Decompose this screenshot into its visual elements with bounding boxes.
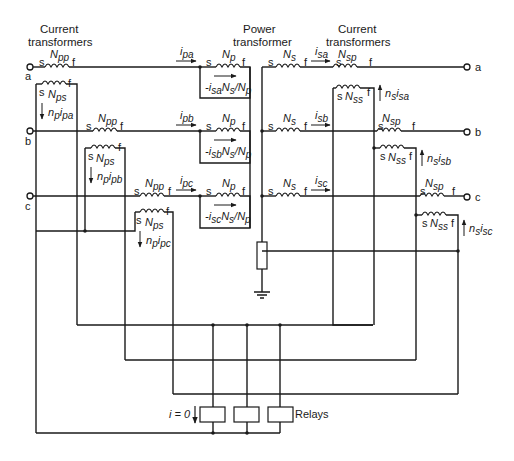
svg-text:s: s <box>88 150 94 162</box>
header-ct-left: Current transformers <box>28 23 93 48</box>
terminal-right-a <box>464 64 470 70</box>
label-ns-b: Ns <box>283 112 296 127</box>
svg-text:s: s <box>136 214 142 226</box>
terminal-right-a-label: a <box>475 61 482 73</box>
winding-name-labels: Npp Npp Npp Nps Nps Nps Np Np Np Ns Ns N… <box>48 48 448 232</box>
differential-protection-diagram: Current transformers Power transformer C… <box>0 0 514 461</box>
svg-text:ipc: ipc <box>180 174 193 189</box>
ground-symbol <box>254 292 270 298</box>
label-npp-c: Npp <box>145 177 165 192</box>
svg-text:s: s <box>86 120 92 132</box>
svg-text:s: s <box>39 86 45 98</box>
svg-text:isb: isb <box>315 109 328 124</box>
terminal-right-b-label: b <box>475 126 481 138</box>
label-nss-b: Nss <box>388 151 406 166</box>
power-title-line1: Power <box>243 23 276 35</box>
left-ct-secondaries <box>36 81 173 433</box>
zero-current-label: i = 0 <box>169 408 191 420</box>
winding-end-labels: s f s f s f s f s f s f s f s f s f s f … <box>39 56 456 229</box>
ct-right-title-line1: Current <box>338 23 377 35</box>
svg-text:s: s <box>206 185 212 197</box>
svg-text:f: f <box>452 185 456 197</box>
svg-text:-iscNs/Np: -iscNs/Np <box>205 210 251 225</box>
svg-text:f: f <box>68 77 72 89</box>
terminal-right-c <box>464 194 470 200</box>
svg-text:f: f <box>304 56 308 68</box>
svg-text:s: s <box>380 150 386 162</box>
svg-text:nsisb: nsisb <box>427 152 452 167</box>
header-ct-right: Current transformers <box>326 23 391 48</box>
svg-text:f: f <box>369 56 373 68</box>
ct-right-title-line2: transformers <box>326 36 391 48</box>
label-np-c: Np <box>222 177 236 192</box>
relays: Relays i = 0 <box>169 406 329 423</box>
label-nss-a: Nss <box>345 90 363 105</box>
relay-c <box>268 407 293 422</box>
svg-text:f: f <box>166 205 170 217</box>
svg-text:npipc: npipc <box>146 234 171 249</box>
svg-text:f: f <box>304 120 308 132</box>
left-terminals: a b c <box>25 64 33 212</box>
svg-text:s: s <box>206 56 212 68</box>
label-np-b: Np <box>222 112 236 127</box>
svg-text:s: s <box>422 217 428 229</box>
right-ct-primaries <box>333 64 464 196</box>
svg-text:s: s <box>268 185 274 197</box>
svg-text:f: f <box>242 120 246 132</box>
svg-text:f: f <box>304 185 308 197</box>
label-ns-c: Ns <box>283 177 296 192</box>
relay-b <box>234 407 259 422</box>
svg-text:f: f <box>409 150 413 162</box>
svg-text:s: s <box>337 90 343 102</box>
label-npp-b: Npp <box>98 112 118 127</box>
svg-text:f: f <box>412 120 416 132</box>
label-nsp-c: Nsp <box>425 177 444 192</box>
svg-text:s: s <box>206 120 212 132</box>
header-power-transformer: Power transformer <box>233 23 292 48</box>
svg-text:f: f <box>242 56 246 68</box>
label-np-a: Np <box>222 48 236 63</box>
grounding-resistor <box>257 242 267 269</box>
svg-text:f: f <box>451 217 455 229</box>
svg-text:isc: isc <box>315 174 327 189</box>
svg-text:npipb: npipb <box>97 170 123 185</box>
svg-text:nsisc: nsisc <box>469 222 493 237</box>
terminal-left-b-label: b <box>25 135 31 147</box>
svg-text:nsisa: nsisa <box>385 87 410 102</box>
terminal-right-b <box>464 129 470 135</box>
terminal-left-b <box>27 128 33 134</box>
svg-text:f: f <box>118 141 122 153</box>
label-nps-a: Nps <box>48 88 67 103</box>
terminal-left-c-label: c <box>25 200 31 212</box>
power-title-line2: transformer <box>233 36 292 48</box>
svg-text:f: f <box>72 56 76 68</box>
svg-text:ipb: ipb <box>180 109 194 124</box>
ct-left-title-line2: transformers <box>28 36 93 48</box>
relays-label: Relays <box>295 408 329 420</box>
svg-text:s: s <box>134 185 140 197</box>
terminal-left-c <box>27 193 33 199</box>
label-ns-a: Ns <box>283 48 296 63</box>
label-nps-b: Nps <box>96 152 115 167</box>
terminal-right-c-label: c <box>475 191 481 203</box>
label-nsp-b: Nsp <box>382 112 401 127</box>
svg-text:f: f <box>168 185 172 197</box>
ct-left-title-line1: Current <box>40 23 79 35</box>
right-terminals: a b c <box>464 61 482 203</box>
relay-a <box>200 407 225 422</box>
label-nss-c: Nss <box>430 217 448 232</box>
svg-text:f: f <box>120 120 124 132</box>
svg-text:-isbNs/Np: -isbNs/Np <box>205 145 252 160</box>
terminal-left-a-label: a <box>25 70 32 82</box>
label-npp-a: Npp <box>50 48 70 63</box>
svg-text:f: f <box>242 185 246 197</box>
label-nps-c: Nps <box>145 216 164 231</box>
svg-text:s: s <box>39 56 45 68</box>
svg-text:-isaNs/Np: -isaNs/Np <box>205 81 252 96</box>
svg-text:s: s <box>268 120 274 132</box>
svg-text:npipa: npipa <box>48 106 74 121</box>
svg-text:s: s <box>268 56 274 68</box>
svg-text:ipa: ipa <box>180 45 194 60</box>
